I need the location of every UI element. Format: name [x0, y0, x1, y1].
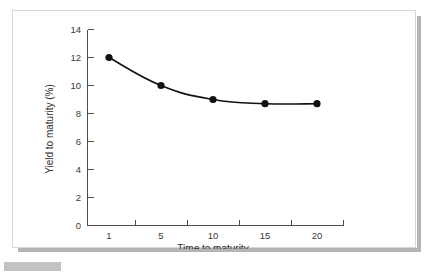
x-tick-label-5: 5: [158, 230, 163, 241]
y-tick-label-4: 4: [76, 164, 81, 175]
y-tick-label-8: 8: [76, 108, 81, 119]
y-tick-label-2: 2: [76, 192, 81, 203]
yield-curve-chart: Yield to maturity (%) 14 12 10 8 6 4: [13, 11, 417, 249]
y-tick-label-0: 0: [76, 220, 81, 231]
y-tick-label-6: 6: [76, 136, 81, 147]
data-point-20: [313, 100, 320, 107]
data-point-5: [157, 82, 164, 89]
y-tick-label-14: 14: [70, 24, 81, 35]
x-tick-label-15: 15: [260, 230, 271, 241]
x-tick-label-10: 10: [208, 230, 219, 241]
x-tick-label-20: 20: [312, 230, 323, 241]
data-point-10: [209, 96, 216, 103]
x-axis-ticks: [136, 220, 344, 226]
y-axis-title: Yield to maturity (%): [44, 84, 55, 174]
y-tick-label-10: 10: [70, 80, 81, 91]
y-tick-label-12: 12: [70, 52, 81, 63]
series-markers: [105, 54, 320, 107]
data-point-15: [261, 100, 268, 107]
y-axis-ticks: 14 12 10 8 6 4 2 0: [70, 24, 93, 231]
x-axis-tick-labels: 1 5 10 15 20: [106, 230, 322, 241]
x-axis-title: Time to maturity: [177, 243, 248, 249]
card-shadow-right: [417, 16, 421, 252]
data-point-1: [105, 54, 112, 61]
bottom-tab-bar: [4, 262, 61, 271]
figure-card: Yield to maturity (%) 14 12 10 8 6 4: [12, 10, 416, 248]
x-tick-label-1: 1: [106, 230, 111, 241]
